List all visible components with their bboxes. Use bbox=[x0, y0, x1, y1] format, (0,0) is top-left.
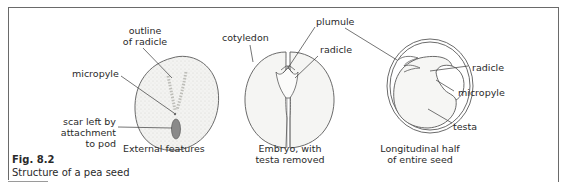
label-micropyle-section: micropyle bbox=[458, 87, 505, 98]
label-scar-line3: to pod bbox=[56, 138, 116, 149]
micropyle-dot bbox=[174, 113, 176, 115]
label-plumule: plumule bbox=[316, 16, 354, 27]
label-scar-line1: scar left by bbox=[56, 116, 116, 127]
label-cotyledon: cotyledon bbox=[222, 32, 269, 43]
cotyledon-section bbox=[394, 56, 457, 128]
figure-number: Fig. 8.2 bbox=[12, 154, 54, 166]
cotyledon-right bbox=[290, 52, 334, 148]
leader-plumule-2 bbox=[345, 28, 397, 60]
longitudinal-seed bbox=[387, 39, 473, 133]
panel-title-longitudinal-line2: of entire seed bbox=[370, 154, 470, 165]
cotyledon-left bbox=[245, 52, 287, 148]
embryo bbox=[245, 52, 334, 148]
label-radicle: radicle bbox=[320, 44, 352, 55]
panel-title-embryo: Embryo, with testa removed bbox=[250, 143, 330, 165]
label-radicle-section: radicle bbox=[472, 62, 504, 73]
external-seed bbox=[135, 56, 219, 150]
panel-title-longitudinal-line1: Longitudinal half bbox=[370, 143, 470, 154]
leader-cotyledon bbox=[250, 45, 253, 62]
panel-title-longitudinal: Longitudinal half of entire seed bbox=[370, 143, 470, 165]
scar bbox=[172, 119, 181, 139]
panel-title-external: External features bbox=[123, 143, 205, 154]
label-scar: scar left by attachment to pod bbox=[56, 116, 116, 149]
panel-title-embryo-line2: testa removed bbox=[250, 154, 330, 165]
label-outline-line2: of radicle bbox=[118, 36, 172, 47]
figure-caption: Structure of a pea seed bbox=[12, 167, 130, 179]
label-outline-of-radicle: outline of radicle bbox=[118, 25, 172, 47]
panel-title-embryo-line1: Embryo, with bbox=[250, 143, 330, 154]
label-micropyle: micropyle bbox=[72, 68, 119, 79]
label-scar-line2: attachment bbox=[56, 127, 116, 138]
label-testa: testa bbox=[453, 121, 477, 132]
label-outline-line1: outline bbox=[118, 25, 172, 36]
